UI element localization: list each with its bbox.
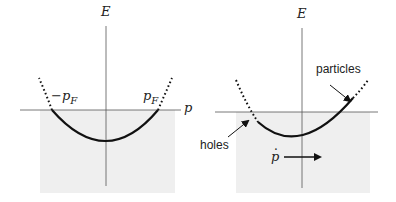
right-fermi-sea-shading bbox=[236, 112, 370, 193]
left-dispersion-dotted-right bbox=[158, 78, 172, 110]
left-p-axis-label: p bbox=[184, 100, 192, 115]
neg-fermi-sub: F bbox=[70, 95, 77, 106]
pdot-label: ·p bbox=[271, 149, 279, 164]
neg-fermi-momentum-label: −pF bbox=[51, 88, 77, 106]
pdot-dot: · bbox=[274, 143, 278, 157]
left-panel bbox=[20, 26, 181, 193]
pos-fermi-momentum-label: pF bbox=[143, 88, 158, 106]
particles-arrow bbox=[330, 85, 350, 101]
fermi-sea-diagram: E p −pF pF E particles holes ·p bbox=[0, 0, 396, 202]
right-e-axis-label: E bbox=[297, 6, 307, 21]
particles-label: particles bbox=[316, 62, 361, 76]
neg-fermi-main: −p bbox=[51, 88, 70, 103]
left-e-axis-label: E bbox=[101, 4, 111, 19]
right-dispersion-dotted-right bbox=[353, 80, 368, 98]
right-panel bbox=[215, 28, 378, 193]
holes-label: holes bbox=[200, 138, 229, 152]
pos-fermi-sub: F bbox=[151, 95, 158, 106]
left-fermi-sea-shading bbox=[40, 110, 175, 193]
